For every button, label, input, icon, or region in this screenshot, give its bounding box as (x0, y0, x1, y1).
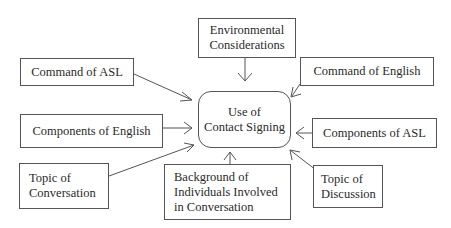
factor-background-of-individuals: Background of Individuals Involved in Co… (164, 164, 291, 220)
factor-label: Command of ASL (31, 65, 123, 80)
factor-label: Topic of Discussion (321, 172, 376, 202)
center-label: Use of Contact Signing (204, 105, 285, 135)
factor-label: Topic of Conversation (29, 171, 96, 201)
factor-label: Background of Individuals Involved in Co… (174, 170, 278, 215)
arrow-components-asl (296, 127, 312, 139)
arrow-environmental (238, 57, 252, 81)
factor-environmental-considerations: Environmental Considerations (198, 18, 296, 58)
factor-label: Components of English (32, 124, 150, 139)
factor-label: Command of English (314, 64, 421, 79)
factor-topic-of-discussion: Topic of Discussion (313, 165, 383, 208)
factor-topic-of-conversation: Topic of Conversation (19, 163, 109, 209)
arrow-background (224, 152, 236, 164)
factor-label: Environmental Considerations (210, 23, 285, 53)
arrow-components-english (163, 122, 192, 134)
factor-label: Components of ASL (323, 126, 426, 141)
factor-command-of-asl: Command of ASL (20, 58, 134, 86)
factor-command-of-english: Command of English (300, 57, 434, 86)
factor-components-of-english: Components of English (20, 114, 163, 148)
arrow-command-asl (134, 74, 192, 101)
center-node-use-of-contact-signing: Use of Contact Signing (198, 91, 291, 148)
factor-components-of-asl: Components of ASL (312, 118, 437, 148)
